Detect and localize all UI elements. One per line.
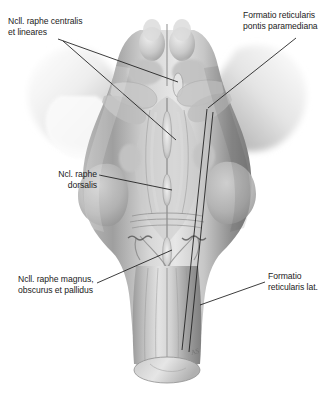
label-line-1: Formatio reticularis <box>243 10 318 21</box>
left-tubercle <box>119 144 141 172</box>
label-line-1: Formatio <box>268 271 318 282</box>
label-line-2: et lineares <box>8 27 82 38</box>
brainstem-illustration <box>0 0 334 400</box>
illustration-body <box>28 19 307 383</box>
right-tubercle <box>193 142 215 170</box>
label-line-1: Ncll. raphe centralis <box>8 16 82 27</box>
leader-lateralis <box>200 282 265 305</box>
cord-cut-surface <box>134 357 200 383</box>
label-line-1: Ncl. raphe <box>19 169 97 180</box>
label-raphe-magnus: Ncll. raphe magnus, obscurus et pallidus <box>18 274 93 296</box>
label-line-1: Ncll. raphe magnus, <box>18 274 93 285</box>
label-raphe-centralis: Ncll. raphe centralis et lineares <box>8 16 82 38</box>
label-line-2: dorsalis <box>19 180 97 191</box>
label-formatio-reticularis-pontis: Formatio reticularis pontis paramediana <box>243 10 318 32</box>
label-raphe-dorsalis: Ncl. raphe dorsalis <box>19 169 97 191</box>
label-line-2: reticularis lat. <box>268 282 318 293</box>
label-line-2: obscurus et pallidus <box>18 285 93 296</box>
label-formatio-reticularis-lat: Formatio reticularis lat. <box>268 271 318 293</box>
label-line-2: pontis paramediana <box>243 21 318 32</box>
